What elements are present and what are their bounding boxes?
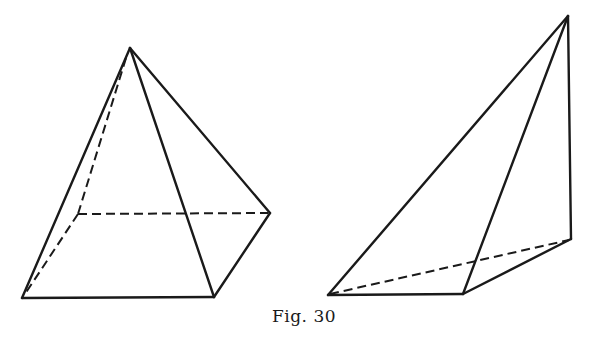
tetra-edge-apex-base-back: [568, 16, 571, 239]
pyramid-edge-apex-front-left: [22, 48, 130, 298]
pyramid-edge-apex-front-right: [130, 48, 214, 297]
geometry-drawing: [0, 0, 596, 343]
tetra-hidden-edge-base: [330, 240, 569, 294]
pyramid-hidden-edge-back: [78, 213, 268, 214]
tetra-edge-apex-base-left: [328, 16, 568, 295]
pyramid-base-front-edge: [22, 297, 214, 298]
tetra-base-front-edge: [328, 294, 463, 295]
tetrahedron: [328, 16, 571, 295]
square-pyramid: [22, 48, 270, 298]
pyramid-edge-apex-back-right: [130, 48, 270, 213]
pyramid-base-right-edge: [214, 213, 270, 297]
pyramid-hidden-edge-left: [25, 214, 78, 294]
figure-caption: Fig. 30: [272, 306, 336, 326]
figure-30: Fig. 30: [0, 0, 596, 343]
pyramid-hidden-edge-apex-back-left: [78, 58, 126, 214]
tetra-base-right-edge: [463, 239, 571, 294]
